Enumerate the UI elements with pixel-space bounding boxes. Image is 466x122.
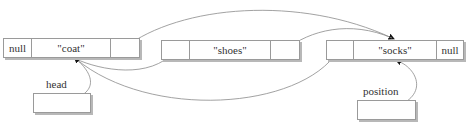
list-node-socks: "socks" null — [326, 40, 464, 60]
prev-field — [327, 41, 354, 59]
head-pointer-box — [33, 93, 91, 113]
next-field — [111, 39, 139, 57]
next-field: null — [437, 41, 463, 59]
prev-field — [162, 41, 190, 59]
head-label: head — [46, 78, 67, 90]
list-node-coat: null "coat" — [3, 38, 140, 58]
prev-field: null — [4, 39, 32, 57]
list-node-shoes: "shoes" — [161, 40, 300, 60]
position-label: position — [363, 85, 398, 97]
value-field: "coat" — [32, 39, 111, 57]
value-field: "shoes" — [190, 41, 271, 59]
next-field — [271, 41, 299, 59]
value-field: "socks" — [354, 41, 437, 59]
position-pointer-box — [357, 100, 416, 120]
